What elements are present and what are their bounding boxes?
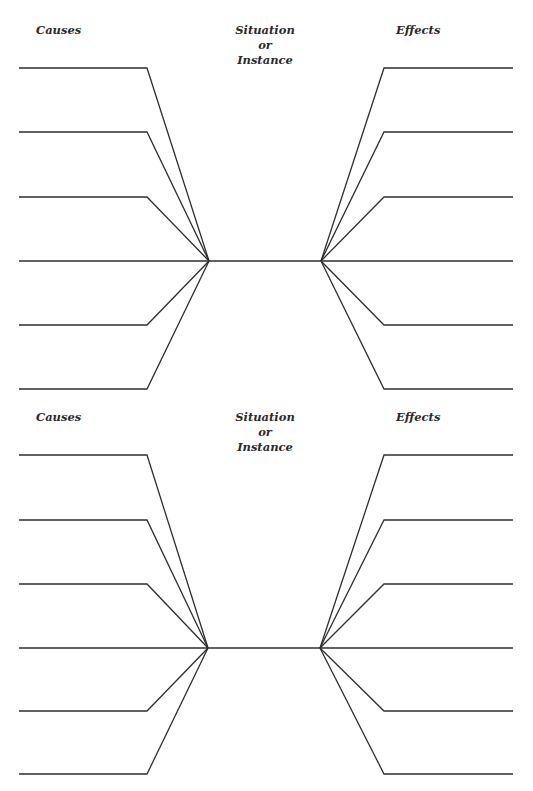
cause-line[interactable] xyxy=(19,648,208,711)
cause-line[interactable] xyxy=(19,584,208,648)
effect-line[interactable] xyxy=(321,261,513,325)
effect-lines xyxy=(321,68,513,389)
diagram-1 xyxy=(19,68,513,389)
cause-effect-diagram xyxy=(0,0,533,791)
effect-line[interactable] xyxy=(320,584,513,648)
effect-lines xyxy=(320,455,513,774)
effect-line[interactable] xyxy=(320,648,513,711)
cause-lines xyxy=(19,455,208,774)
diagram-2 xyxy=(19,455,513,774)
cause-line[interactable] xyxy=(19,197,209,261)
cause-line[interactable] xyxy=(19,261,209,325)
cause-lines xyxy=(19,68,209,389)
effect-line[interactable] xyxy=(321,197,513,261)
